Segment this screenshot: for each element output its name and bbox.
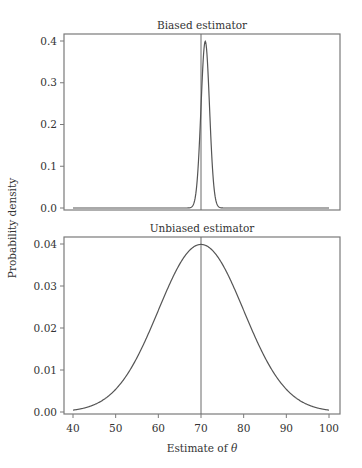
x-tick-label: 40 bbox=[66, 422, 79, 434]
biased-estimator-panel: Biased estimator 0.00.10.20.30.4 bbox=[40, 19, 340, 214]
y-tick-label: 0.1 bbox=[40, 160, 57, 172]
x-tick-label: 80 bbox=[237, 422, 250, 434]
y-tick-label: 0.02 bbox=[34, 322, 57, 334]
y-tick-label: 0.00 bbox=[34, 406, 57, 418]
panel-title-unbiased: Unbiased estimator bbox=[150, 222, 256, 234]
y-tick-label: 0.2 bbox=[40, 118, 57, 130]
y-tick-label: 0.04 bbox=[34, 238, 58, 250]
x-tick-label: 90 bbox=[280, 422, 293, 434]
y-axis-label: Probability density bbox=[6, 178, 18, 278]
y-tick-label: 0.4 bbox=[40, 35, 57, 47]
y-axis-ticks-bottom: 0.000.010.020.030.04 bbox=[34, 238, 64, 418]
figure: Biased estimator 0.00.10.20.30.4 Unbiase… bbox=[0, 0, 362, 468]
panel-title-biased: Biased estimator bbox=[157, 19, 248, 31]
y-axis-ticks-top: 0.00.10.20.30.4 bbox=[40, 35, 64, 214]
y-tick-label: 0.03 bbox=[34, 280, 57, 292]
plot-frame-top bbox=[64, 34, 340, 210]
unbiased-estimator-panel: Unbiased estimator 0.000.010.020.030.04 … bbox=[34, 222, 340, 434]
y-tick-label: 0.0 bbox=[40, 202, 57, 214]
x-tick-label: 50 bbox=[109, 422, 122, 434]
x-axis-ticks-bottom: 405060708090100 bbox=[66, 414, 339, 434]
y-tick-label: 0.3 bbox=[40, 76, 57, 88]
x-tick-label: 100 bbox=[319, 422, 339, 434]
x-axis-label: Estimate of θ bbox=[167, 442, 238, 454]
plot-frame-bottom bbox=[64, 237, 340, 414]
x-tick-label: 70 bbox=[194, 422, 207, 434]
x-tick-label: 60 bbox=[152, 422, 165, 434]
y-tick-label: 0.01 bbox=[34, 364, 57, 376]
